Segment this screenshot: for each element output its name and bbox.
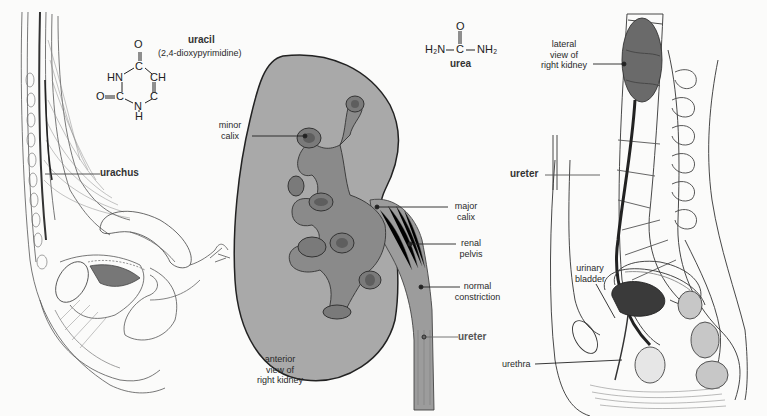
normal-constriction-label: normal constriction xyxy=(450,281,505,302)
lateral-view-label: lateral view of right kidney xyxy=(534,39,594,71)
uracil-atom-c2: C xyxy=(116,90,124,102)
anatomy-illustration xyxy=(0,0,767,416)
major-calix-label: major calix xyxy=(446,201,486,222)
urethra-label: urethra xyxy=(502,359,531,370)
uracil-atom-o-top: O xyxy=(134,38,143,50)
urea-atom-h2n: H₂N xyxy=(425,43,445,55)
uracil-atom-h: H xyxy=(135,110,143,122)
left-sagittal-section xyxy=(21,12,230,393)
urea-atom-nh2: NH₂ xyxy=(477,43,497,55)
minor-calix-label: minor calix xyxy=(210,120,250,141)
right-sagittal-section xyxy=(550,14,747,416)
ureter-right-label: ureter xyxy=(510,169,538,180)
uracil-atom-c4: C xyxy=(135,60,143,72)
uracil-atom-ch: CH xyxy=(150,71,166,83)
anterior-view-label: anterior view of right kidney xyxy=(250,354,310,386)
urinary-bladder-label: urinary bladder xyxy=(570,263,610,284)
urea-label: urea xyxy=(450,59,471,70)
uracil-atom-o-left: O xyxy=(96,90,105,102)
uracil-synonym: (2,4-dioxypyrimidine) xyxy=(158,48,242,59)
urachus-label: urachus xyxy=(100,168,139,179)
uracil-label: uracil xyxy=(188,35,215,46)
leader-lines-right xyxy=(535,62,626,364)
urea-atom-c: C xyxy=(456,43,464,55)
uracil-atom-c6: C xyxy=(150,90,158,102)
renal-pelvis-label: renal pelvis xyxy=(453,238,489,259)
ureter-center-label: ureter xyxy=(458,332,486,343)
uracil-atom-hn: HN xyxy=(107,71,123,83)
urea-atom-o: O xyxy=(456,20,465,32)
